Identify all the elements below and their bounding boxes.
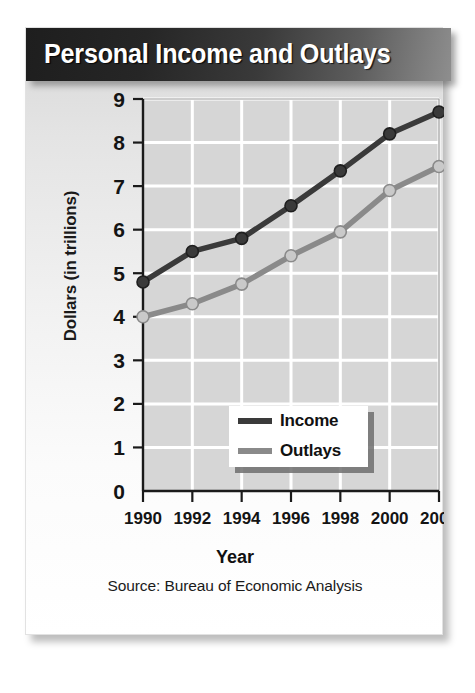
y-tick-label: 8	[113, 131, 125, 154]
y-tick-label: 3	[113, 349, 125, 372]
data-point	[384, 184, 396, 196]
y-tick-label: 2	[113, 392, 125, 415]
data-point	[433, 161, 444, 173]
x-tick-label: 1992	[173, 509, 211, 528]
x-tick-label: 1990	[124, 509, 162, 528]
y-tick-label: 1	[113, 436, 125, 459]
x-tick-label: 1998	[321, 509, 359, 528]
legend-label-income: Income	[280, 411, 338, 431]
data-point	[236, 278, 248, 290]
chart-legend: Income Outlays	[229, 406, 368, 467]
legend-item-income: Income	[229, 406, 368, 436]
data-point	[186, 298, 198, 310]
x-tick-label: 2000	[371, 509, 409, 528]
chart-title-banner: Personal Income and Outlays	[26, 28, 451, 81]
legend-label-outlays: Outlays	[280, 441, 341, 461]
chart-body: Dollars (in trillions) 0123456789 199019…	[26, 81, 442, 634]
y-axis-ticks: 0123456789	[113, 88, 143, 503]
x-tick-label: 2002	[420, 509, 444, 528]
data-point	[137, 311, 149, 323]
x-axis-title: Year	[26, 547, 444, 568]
legend-swatch-outlays	[238, 448, 272, 454]
y-tick-label: 5	[113, 262, 125, 285]
y-tick-label: 9	[113, 88, 125, 111]
data-point	[433, 106, 444, 118]
data-point	[186, 245, 198, 257]
y-tick-label: 4	[113, 305, 125, 328]
data-point	[334, 165, 346, 177]
data-point	[236, 232, 248, 244]
source-note: Source: Bureau of Economic Analysis	[26, 577, 444, 595]
line-chart-plot: 0123456789 1990199219941996199820002002	[26, 81, 444, 561]
chart-card: Personal Income and Outlays Dollars (in …	[25, 27, 443, 635]
data-point	[334, 226, 346, 238]
data-point	[384, 128, 396, 140]
x-tick-label: 1994	[223, 509, 261, 528]
y-tick-label: 7	[113, 175, 125, 198]
legend-item-outlays: Outlays	[229, 436, 368, 466]
y-tick-label: 0	[113, 480, 125, 503]
x-tick-label: 1996	[272, 509, 310, 528]
page-title: Personal Income and Outlays	[44, 38, 391, 69]
data-point	[137, 276, 149, 288]
legend-swatch-income	[238, 418, 272, 424]
y-tick-label: 6	[113, 218, 125, 241]
x-axis-ticks: 1990199219941996199820002002	[124, 491, 444, 528]
data-point	[285, 200, 297, 212]
data-point	[285, 250, 297, 262]
